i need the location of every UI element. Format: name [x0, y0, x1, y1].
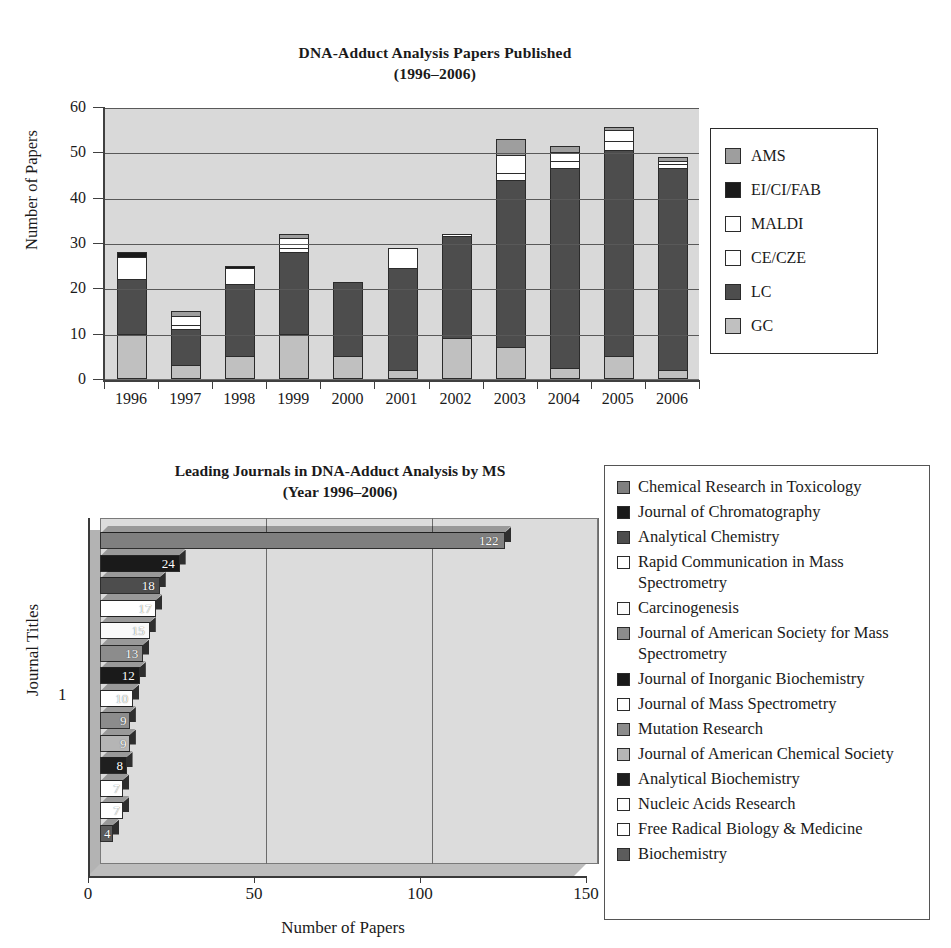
gridline [105, 289, 699, 290]
bar-1996[interactable] [117, 252, 147, 379]
bar-value-label: 18 [142, 577, 155, 594]
chart2-legend: Chemical Research in ToxicologyJournal o… [604, 465, 930, 920]
bar-2002[interactable] [442, 234, 472, 379]
chart2-x-axis-title: Number of Papers [88, 918, 598, 938]
legend-item-chemical-research-in-toxicology[interactable]: Chemical Research in Toxicology [617, 476, 921, 497]
bar-segment-LC [604, 150, 634, 356]
legend-item-analytical-biochemistry[interactable]: Analytical Biochemistry [617, 768, 921, 789]
bar-segment-MALDI [604, 130, 634, 141]
legend-label: Analytical Chemistry [638, 526, 780, 547]
legend-swatch-icon [617, 602, 630, 615]
gridline [598, 518, 599, 864]
bar-value-label: 9 [120, 712, 127, 729]
y-tick-label: 20 [26, 279, 86, 297]
bar-segment-AMS [550, 146, 580, 153]
legend-item-nucleic-acids-research[interactable]: Nucleic Acids Research [617, 793, 921, 814]
bar-1999[interactable] [279, 234, 309, 379]
x-tick [483, 381, 484, 389]
chart2-x-tick-labels: 050100150 [88, 884, 588, 910]
bar-2006[interactable] [658, 157, 688, 379]
chart1-x-ticks [104, 381, 700, 390]
chart2-plot-wrapper: 12224181715131210998774 050100150 [88, 518, 598, 876]
legend-swatch-icon [617, 798, 630, 811]
legend-item-analytical-chemistry[interactable]: Analytical Chemistry [617, 526, 921, 547]
legend-label: Carcinogenesis [638, 597, 739, 618]
bar-2001[interactable] [388, 248, 418, 379]
legend-label: CE/CZE [751, 249, 806, 267]
x-tick [586, 876, 587, 883]
legend-label: Rapid Communication in Mass Spectrometry [638, 551, 921, 593]
legend-item-AMS[interactable]: AMS [725, 139, 877, 173]
gridline [105, 108, 699, 109]
bar-segment-GC [604, 356, 634, 379]
x-tick-label-2003: 2003 [483, 390, 537, 408]
bar-segment-MALDI [496, 155, 526, 173]
y-tick-label: 60 [26, 98, 86, 116]
legend-label: GC [751, 317, 773, 335]
legend-label: LC [751, 283, 771, 301]
bar-value-label: 24 [162, 555, 175, 572]
x-tick [374, 381, 375, 389]
legend-swatch-icon [617, 673, 630, 686]
figure-page: DNA-Adduct Analysis Papers Published (19… [0, 0, 951, 948]
y-tick-label: 50 [26, 143, 86, 161]
stacked-bar-chart-papers-published: DNA-Adduct Analysis Papers Published (19… [0, 0, 951, 430]
legend-label: Mutation Research [638, 718, 763, 739]
bar-top-face [101, 526, 511, 533]
y-tick [93, 198, 104, 199]
bar-segment-LC [496, 180, 526, 348]
x-tick-label-100: 100 [390, 884, 450, 904]
legend-label: EI/CI/FAB [751, 181, 821, 199]
bar-chemical-research-in-toxicology[interactable] [100, 532, 505, 549]
legend-label: Journal of American Society for Mass Spe… [638, 622, 921, 664]
x-tick [537, 381, 538, 389]
x-tick [645, 381, 646, 389]
gridline [105, 199, 699, 200]
y-tick-label: 10 [26, 325, 86, 343]
bar-2005[interactable] [604, 127, 634, 379]
legend-item-carcinogenesis[interactable]: Carcinogenesis [617, 597, 921, 618]
gridline [105, 335, 699, 336]
y-tick-label: 40 [26, 189, 86, 207]
legend-item-EI-CI-FAB[interactable]: EI/CI/FAB [725, 173, 877, 207]
x-tick-label-2000: 2000 [320, 390, 374, 408]
chart2-y-axis-title: Journal Titles [23, 555, 43, 745]
bar-2003[interactable] [496, 139, 526, 379]
x-tick-label-50: 50 [224, 884, 284, 904]
bar-value-label: 7 [113, 780, 120, 797]
legend-swatch-icon [617, 556, 630, 569]
legend-swatch-icon [617, 848, 630, 861]
bar-segment-MALDI [117, 257, 147, 280]
bar-value-label: 122 [479, 532, 499, 549]
bar-value-label: 12 [122, 667, 135, 684]
legend-item-journal-of-american-society-for-mass-spectrometry[interactable]: Journal of American Society for Mass Spe… [617, 622, 921, 664]
bar-1998[interactable] [225, 266, 255, 379]
legend-item-GC[interactable]: GC [725, 309, 877, 343]
legend-item-journal-of-american-chemical-society[interactable]: Journal of American Chemical Society [617, 743, 921, 764]
legend-swatch-icon [617, 506, 630, 519]
bar-top-face [101, 616, 156, 623]
legend-item-rapid-communication-in-mass-spectrometry[interactable]: Rapid Communication in Mass Spectrometry [617, 551, 921, 593]
legend-item-CE-CZE[interactable]: CE/CZE [725, 241, 877, 275]
x-tick [420, 876, 421, 883]
legend-swatch-icon [725, 148, 741, 164]
bar-1997[interactable] [171, 311, 201, 379]
bar-segment-LC [117, 279, 147, 333]
legend-item-mutation-research[interactable]: Mutation Research [617, 718, 921, 739]
chart2-title: Leading Journals in DNA-Adduct Analysis … [70, 460, 610, 502]
y-tick [93, 152, 104, 153]
bar-2004[interactable] [550, 146, 580, 379]
legend-item-journal-of-inorganic-biochemistry[interactable]: Journal of Inorganic Biochemistry [617, 668, 921, 689]
legend-label: AMS [751, 147, 786, 165]
legend-label: Journal of Mass Spectrometry [638, 693, 836, 714]
legend-swatch-icon [617, 481, 630, 494]
legend-item-free-radical-biology-medicine[interactable]: Free Radical Biology & Medicine [617, 818, 921, 839]
legend-label: Journal of Inorganic Biochemistry [638, 668, 865, 689]
legend-item-LC[interactable]: LC [725, 275, 877, 309]
legend-item-journal-of-mass-spectrometry[interactable]: Journal of Mass Spectrometry [617, 693, 921, 714]
legend-swatch-icon [617, 531, 630, 544]
legend-item-journal-of-chromatography[interactable]: Journal of Chromatography [617, 501, 921, 522]
bar-2000[interactable] [333, 282, 363, 379]
legend-item-MALDI[interactable]: MALDI [725, 207, 877, 241]
legend-item-biochemistry[interactable]: Biochemistry [617, 843, 921, 864]
